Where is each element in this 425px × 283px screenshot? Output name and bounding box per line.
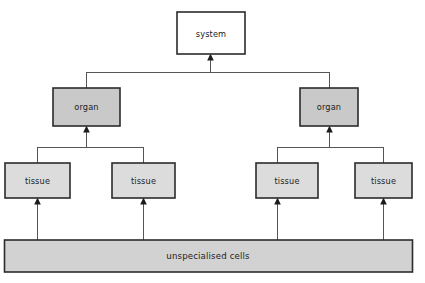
node-organ-left[interactable]: organ: [53, 88, 120, 126]
system-label: system: [196, 29, 227, 39]
node-tissue-3[interactable]: tissue: [256, 163, 318, 198]
organisation-hierarchy-diagram: system organ organ tissue tissue tissue: [0, 0, 425, 283]
connectors-cells-to-tissue: [34, 198, 387, 241]
tissue-4-label: tissue: [371, 176, 396, 186]
node-system[interactable]: system: [177, 12, 245, 54]
arrow-cells-to-tissue-4: [380, 198, 387, 241]
hierarchy-diagram-canvas: system organ organ tissue tissue tissue: [0, 0, 425, 283]
tissue-1-label: tissue: [25, 176, 50, 186]
node-organ-right[interactable]: organ: [300, 88, 358, 126]
arrow-cells-to-tissue-2: [140, 198, 147, 241]
tissue-3-label: tissue: [274, 176, 299, 186]
arrow-cells-to-tissue-1: [34, 198, 41, 241]
organ-right-label: organ: [317, 102, 341, 112]
node-tissue-1[interactable]: tissue: [5, 163, 70, 198]
tissue-2-label: tissue: [131, 176, 156, 186]
node-tissue-2[interactable]: tissue: [112, 163, 175, 198]
connectors-tissue-to-organ-right: [277, 126, 384, 164]
organ-left-label: organ: [74, 102, 98, 112]
connectors-organ-to-system: [86, 54, 330, 89]
arrow-cells-to-tissue-3: [274, 198, 281, 241]
node-unspecialised-cells[interactable]: unspecialised cells: [5, 240, 413, 272]
connectors-tissue-to-organ-left: [37, 126, 144, 164]
unspecialised-cells-label: unspecialised cells: [166, 251, 250, 261]
node-tissue-4[interactable]: tissue: [355, 163, 412, 198]
